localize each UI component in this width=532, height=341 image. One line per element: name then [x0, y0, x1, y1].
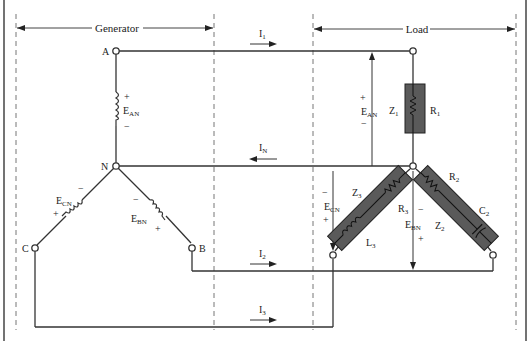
- svg-text:L3: L3: [366, 237, 376, 250]
- generator-label: Generator: [95, 22, 139, 34]
- svg-text:−: −: [124, 121, 130, 132]
- svg-text:+: +: [155, 223, 161, 234]
- svg-text:EBN: EBN: [131, 213, 147, 226]
- node-n-terminal: [113, 163, 119, 169]
- current-i3: I3: [250, 304, 277, 323]
- svg-text:+: +: [124, 91, 130, 102]
- svg-text:Z2: Z2: [435, 220, 445, 233]
- arrow-right-icon: [269, 41, 277, 47]
- node-c-label: C: [22, 243, 29, 254]
- gen-ecn-label: − ECN +: [53, 183, 84, 219]
- svg-text:I3: I3: [259, 304, 266, 317]
- node-n-label: N: [101, 161, 108, 172]
- impedance-z3: Z3 R3 L3: [328, 166, 413, 251]
- load-label: Load: [406, 23, 429, 35]
- svg-text:EAN: EAN: [123, 105, 139, 118]
- svg-text:−: −: [78, 183, 84, 194]
- arrow-up-icon: [369, 52, 375, 60]
- svg-text:I2: I2: [259, 248, 266, 261]
- current-i1: I1: [250, 28, 277, 47]
- arrow-left-icon: [249, 156, 257, 162]
- node-a-label: A: [102, 46, 110, 57]
- svg-text:Z1: Z1: [389, 105, 399, 118]
- svg-text:−: −: [418, 204, 424, 215]
- load-a-terminal: [410, 48, 416, 54]
- current-in: IN: [249, 142, 277, 162]
- generator-section-marker: Generator: [17, 22, 213, 34]
- svg-text:−: −: [133, 194, 139, 205]
- coil-ean-icon: [116, 92, 119, 126]
- svg-text:C2: C2: [479, 205, 490, 218]
- gen-ean-label: + EAN −: [123, 91, 139, 132]
- arrow-right-icon: [269, 317, 277, 323]
- svg-text:ECN: ECN: [324, 201, 340, 214]
- svg-text:−: −: [361, 118, 367, 129]
- node-c-terminal: [32, 245, 38, 251]
- section-boundaries: [16, 14, 516, 330]
- svg-text:R2: R2: [449, 171, 460, 184]
- svg-text:R1: R1: [430, 105, 441, 118]
- coil-ebn-icon: [150, 200, 165, 220]
- gen-ebn-label: − EBN +: [131, 194, 161, 234]
- node-a-terminal: [113, 48, 119, 54]
- svg-text:+: +: [53, 208, 59, 219]
- svg-text:+: +: [323, 214, 329, 225]
- arrow-right-icon: [269, 261, 277, 267]
- node-b-terminal: [189, 245, 195, 251]
- impedance-z2: R2 C2 Z2: [414, 166, 499, 251]
- svg-text:Z3: Z3: [352, 187, 362, 200]
- svg-text:I1: I1: [259, 28, 266, 41]
- impedance-z1: Z1 R1: [389, 84, 441, 133]
- arrow-down-icon: [410, 262, 416, 270]
- load-n-terminal: [410, 163, 416, 169]
- load-b-terminal: [490, 252, 496, 258]
- svg-text:−: −: [322, 187, 328, 198]
- generator-coils: [62, 92, 165, 220]
- svg-text:IN: IN: [259, 142, 267, 155]
- three-phase-circuit-diagram: Generator Load: [0, 0, 532, 341]
- load-section-marker: Load: [314, 23, 515, 35]
- node-b-label: B: [199, 243, 206, 254]
- load-ean-voltage: + EAN −: [360, 52, 377, 166]
- svg-text:+: +: [360, 92, 366, 103]
- load-c-terminal: [330, 252, 336, 258]
- svg-text:ECN: ECN: [56, 195, 72, 208]
- svg-text:R3: R3: [398, 203, 409, 216]
- svg-text:+: +: [418, 233, 424, 244]
- current-i2: I2: [250, 248, 277, 267]
